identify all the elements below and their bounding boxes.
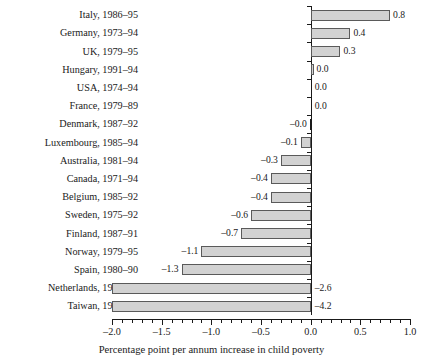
category-tick: [307, 206, 311, 207]
bar: [271, 173, 311, 184]
category-tick: [307, 6, 311, 7]
x-major-tick: [311, 320, 312, 325]
x-minor-tick: [350, 320, 351, 323]
bar-value-label: 0.0: [315, 82, 327, 92]
bar: [311, 64, 314, 75]
bar: [182, 264, 311, 275]
bar: [311, 10, 391, 21]
bar-value-label: 0.4: [353, 28, 365, 38]
bar-value-label: –0.6: [231, 210, 248, 220]
bar-value-label: 0.0: [317, 64, 329, 74]
bar-value-label: –4.2: [315, 301, 332, 311]
category-tick: [307, 170, 311, 171]
x-minor-tick: [231, 320, 232, 323]
x-tick-label: 0.0: [291, 326, 331, 338]
bar: [281, 155, 311, 166]
bar-value-label: 0.3: [344, 46, 356, 56]
bar: [112, 301, 311, 312]
x-minor-tick: [331, 320, 332, 323]
bar: [311, 28, 351, 39]
x-minor-tick: [291, 320, 292, 323]
category-tick: [307, 42, 311, 43]
x-minor-tick: [370, 320, 371, 323]
bar-value-label: –0.1: [281, 137, 298, 147]
x-major-tick: [162, 320, 163, 325]
category-tick: [307, 188, 311, 189]
x-major-tick: [410, 320, 411, 325]
bar-value-label: –0.7: [221, 228, 238, 238]
category-tick: [307, 97, 311, 98]
category-tick: [307, 79, 311, 80]
x-minor-tick: [251, 320, 252, 323]
bar-value-label: –1.3: [162, 264, 179, 274]
x-minor-tick: [221, 320, 222, 323]
x-minor-tick: [400, 320, 401, 323]
plot-area: 0.80.40.30.00.00.0–0.0–0.1–0.3–0.4–0.4–0…: [112, 6, 410, 315]
bar: [311, 46, 341, 57]
x-tick-label: –2.0: [92, 326, 132, 338]
x-minor-tick: [271, 320, 272, 323]
child-poverty-bar-chart: Italy, 1986–95Germany, 1973–94UK, 1979–9…: [0, 0, 423, 364]
x-minor-tick: [321, 320, 322, 323]
x-minor-tick: [122, 320, 123, 323]
category-tick: [307, 115, 311, 116]
category-tick: [307, 297, 311, 298]
x-minor-tick: [152, 320, 153, 323]
category-tick: [307, 224, 311, 225]
x-minor-tick: [301, 320, 302, 323]
bar-value-label: –2.6: [315, 283, 332, 293]
category-tick: [307, 24, 311, 25]
bar: [271, 192, 311, 203]
x-minor-tick: [341, 320, 342, 323]
category-tick: [307, 152, 311, 153]
x-major-tick: [211, 320, 212, 325]
x-major-tick: [261, 320, 262, 325]
bar-value-label: –0.4: [251, 192, 268, 202]
bar-value-label: –1.1: [182, 246, 199, 256]
x-major-tick: [112, 320, 113, 325]
x-minor-tick: [172, 320, 173, 323]
bar-value-label: 0.0: [315, 101, 327, 111]
bar: [241, 228, 311, 239]
x-minor-tick: [241, 320, 242, 323]
category-tick: [307, 279, 311, 280]
bar: [311, 82, 313, 93]
x-tick-label: –1.5: [142, 326, 182, 338]
x-major-tick: [360, 320, 361, 325]
bar: [310, 119, 312, 130]
bar: [112, 283, 311, 294]
bar: [251, 210, 311, 221]
x-minor-tick: [390, 320, 391, 323]
x-minor-tick: [281, 320, 282, 323]
x-minor-tick: [142, 320, 143, 323]
bar-value-label: –0.0: [290, 119, 307, 129]
x-tick-label: –1.0: [191, 326, 231, 338]
category-tick: [307, 133, 311, 134]
bar-value-label: 0.8: [393, 10, 405, 20]
category-tick: [307, 61, 311, 62]
x-minor-tick: [380, 320, 381, 323]
bar: [301, 137, 311, 148]
x-minor-tick: [192, 320, 193, 323]
bar-value-label: –0.3: [261, 155, 278, 165]
x-tick-label: –0.5: [241, 326, 281, 338]
x-minor-tick: [132, 320, 133, 323]
category-tick: [307, 243, 311, 244]
x-tick-label: 0.5: [340, 326, 380, 338]
bar-value-label: –0.4: [251, 173, 268, 183]
x-minor-tick: [182, 320, 183, 323]
x-minor-tick: [201, 320, 202, 323]
x-tick-label: 1.0: [390, 326, 423, 338]
x-axis-title: Percentage point per annum increase in c…: [0, 344, 423, 355]
bar: [201, 246, 310, 257]
category-tick: [307, 261, 311, 262]
